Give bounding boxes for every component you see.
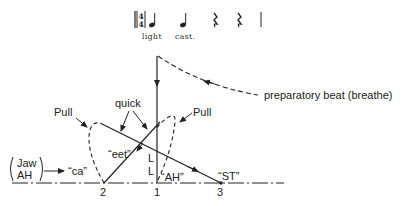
syllable-ca: “ca” — [68, 165, 87, 177]
quick-label: quick — [115, 97, 141, 109]
lyric-light: light — [142, 32, 162, 41]
pull-label-right: Pull — [193, 106, 211, 118]
quarter-rest-icon — [238, 13, 241, 27]
quarter-note-icon — [148, 13, 155, 28]
svg-text:AH: AH — [17, 169, 32, 181]
preparatory-arrow — [204, 81, 215, 84]
conducting-diagram: 4 4 light cast. preparatory beat (breath… — [0, 0, 401, 206]
preparatory-label: preparatory beat (breathe) — [264, 89, 392, 101]
music-notation: 4 4 light cast. — [135, 11, 261, 41]
lyric-cast: cast. — [175, 32, 195, 41]
syllable-st: “ST” — [218, 170, 240, 182]
syllable-eet: “eet” — [108, 148, 131, 160]
quarter-rest-icon — [214, 13, 217, 27]
jaw-ah-label: Jaw AH — [11, 157, 43, 181]
pull-label-left: Pull — [54, 106, 72, 118]
l-label-1: L — [148, 152, 154, 164]
svg-text:Jaw: Jaw — [17, 157, 37, 169]
preparatory-curve — [158, 56, 258, 95]
beat-3-label: 3 — [217, 186, 223, 198]
time-signature-bottom: 4 — [139, 20, 145, 29]
syllable-ah: “AH” — [161, 171, 184, 183]
beat-2-label: 2 — [100, 186, 106, 198]
quarter-note-icon — [179, 13, 186, 28]
beat-1-label: 1 — [154, 186, 160, 198]
left-loop — [89, 123, 104, 183]
l-label-2: L — [148, 165, 154, 177]
